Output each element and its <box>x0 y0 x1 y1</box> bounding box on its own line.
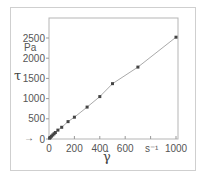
data-point <box>175 36 178 39</box>
y-axis-unit: Pa <box>24 42 37 53</box>
data-point <box>60 126 63 129</box>
y-tick-label: 1500 <box>23 73 46 84</box>
origin-arrow-icon: → <box>24 132 34 143</box>
data-point <box>86 106 89 109</box>
y-tick-label: 0 <box>39 134 45 145</box>
x-tick-label: 200 <box>66 143 83 154</box>
x-axis-unit: s⁻¹ <box>145 143 159 154</box>
x-tick-label: 1000 <box>165 143 188 154</box>
data-point <box>98 95 101 98</box>
x-tick-label: 600 <box>117 143 134 154</box>
data-line <box>49 37 176 139</box>
y-axis-symbol: τ <box>14 68 21 83</box>
x-tick-label: 0 <box>46 143 52 154</box>
y-tick-label: 2000 <box>23 53 46 64</box>
y-tick-label: 500 <box>28 113 45 124</box>
data-point <box>73 116 76 119</box>
y-tick-label: 1000 <box>23 93 46 104</box>
data-point <box>56 129 59 132</box>
chart: 05001000150020002500 02004006001000 τ Pa… <box>0 0 206 179</box>
data-point <box>67 120 70 123</box>
data-point <box>111 82 114 85</box>
x-axis-symbol: γ̇ <box>103 149 111 164</box>
data-point <box>136 66 139 69</box>
